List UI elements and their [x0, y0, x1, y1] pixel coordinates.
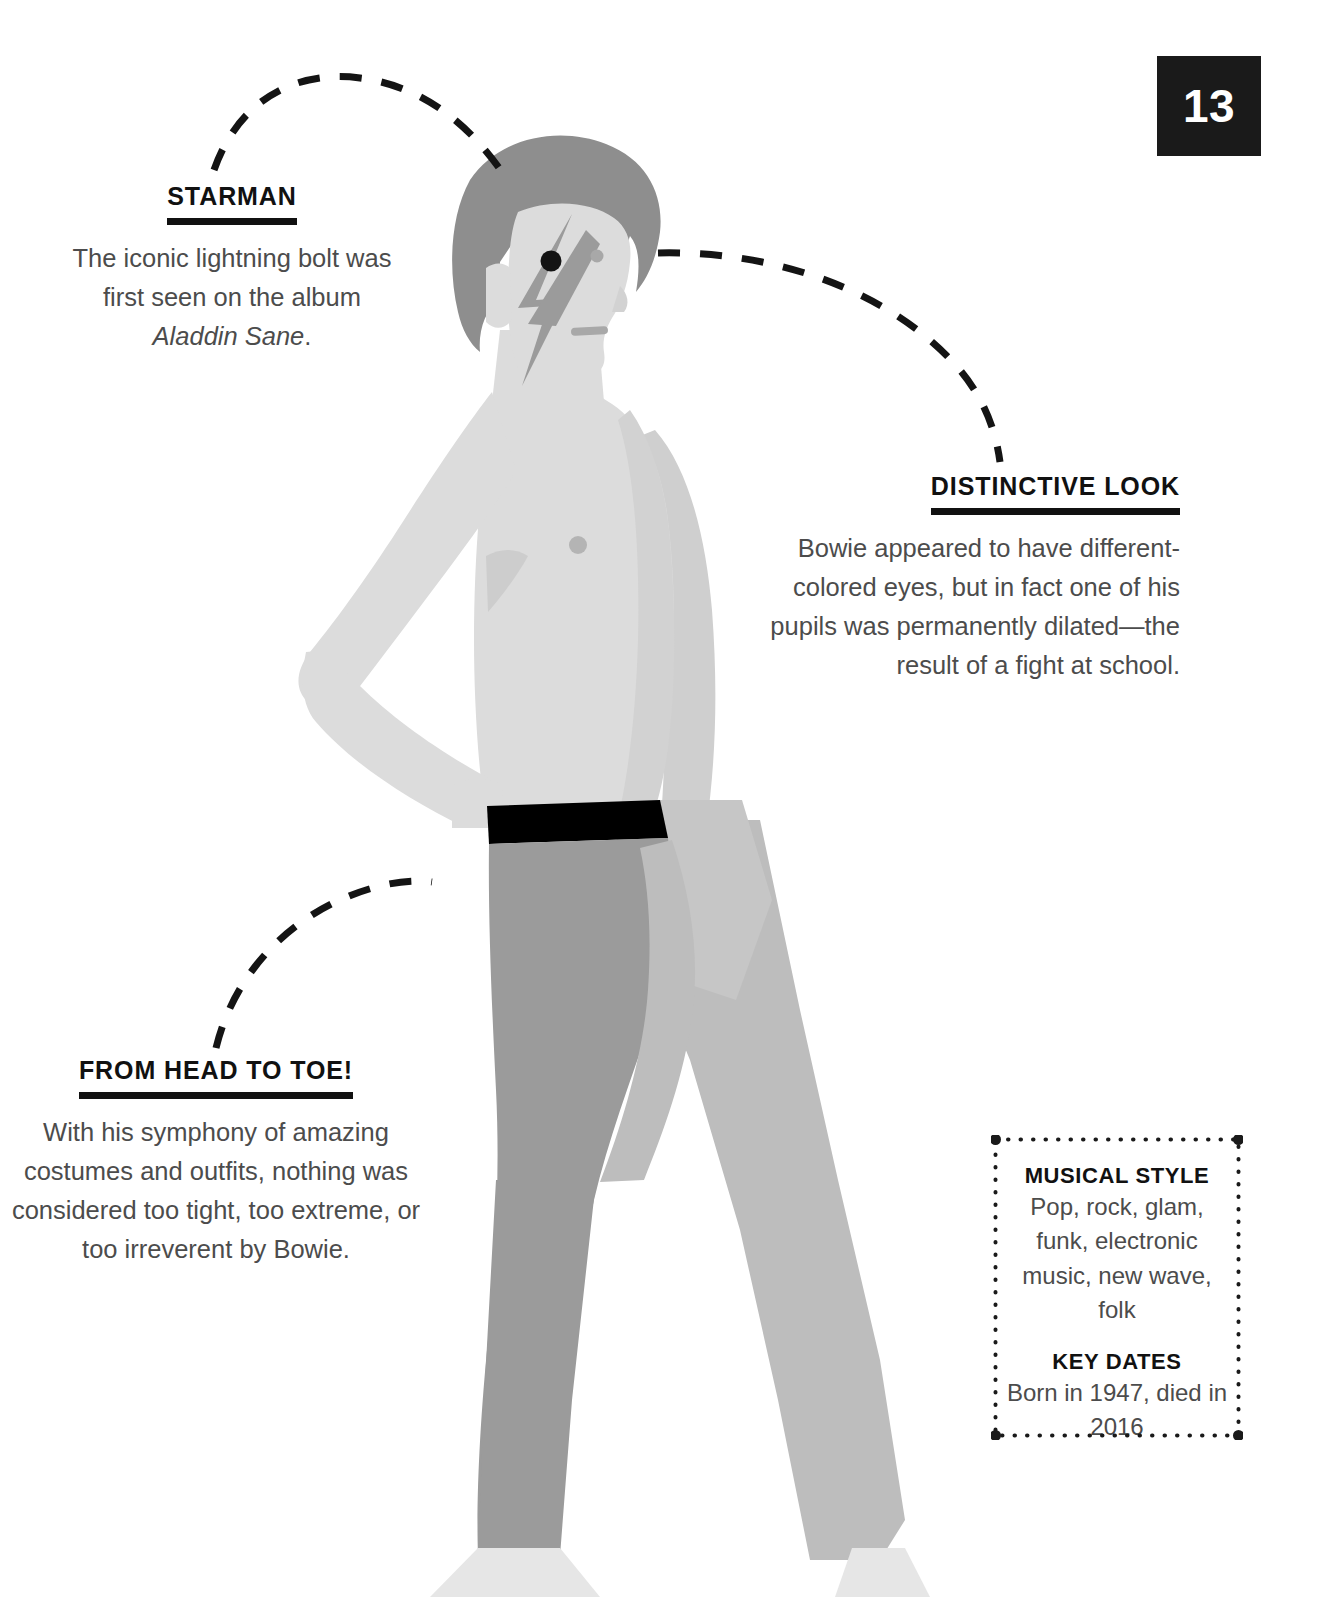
- near-leg-shape: [477, 838, 671, 1556]
- far-leg-thigh-shape: [600, 840, 695, 1182]
- torso-shape: [474, 382, 674, 826]
- dilated-pupil-dot: [541, 251, 562, 272]
- fact-box-dotted-border: [991, 1135, 1243, 1440]
- callout-starman-body-post: .: [304, 322, 311, 350]
- lightning-bolt-icon: [518, 214, 572, 386]
- elbow-shade: [486, 550, 528, 612]
- callout-distinctive-look-body: Bowie appeared to have different-colored…: [760, 529, 1180, 685]
- near-foot-shape: [430, 1548, 600, 1597]
- near-arm-forearm-shape: [303, 650, 500, 826]
- near-arm-upper-shape: [298, 392, 516, 709]
- callout-from-head-to-toe-body: With his symphony of amazing costumes an…: [6, 1113, 426, 1269]
- callout-from-head-to-toe-heading: FROM HEAD TO TOE!: [79, 1057, 353, 1099]
- callout-from-head-to-toe: FROM HEAD TO TOE! With his symphony of a…: [6, 1057, 426, 1269]
- torso-back-shade: [616, 410, 674, 826]
- callout-distinctive-look: DISTINCTIVE LOOK Bowie appeared to have …: [760, 473, 1180, 685]
- sideburn-shape: [486, 264, 512, 328]
- callout-starman: STARMAN The iconic lightning bolt was fi…: [62, 183, 402, 356]
- far-foot-shape: [835, 1548, 930, 1597]
- normal-eye-dot: [591, 250, 604, 263]
- lightning-bolt-icon-upper: [528, 230, 600, 326]
- callout-distinctive-look-heading: DISTINCTIVE LOOK: [931, 473, 1180, 515]
- infographic-page: 13 STARMAN The iconic lightning bolt was…: [0, 0, 1317, 1597]
- far-hip-shape: [636, 800, 772, 1000]
- nipple-dot: [569, 536, 587, 554]
- near-leg-shin-shape: [478, 1180, 596, 1556]
- hand-shape: [452, 779, 504, 829]
- hair-shape: [452, 136, 660, 352]
- connector-distinctive-look-arc: [658, 253, 1000, 462]
- face-shape: [508, 203, 630, 374]
- mouth-line: [571, 326, 608, 336]
- far-leg-shape: [612, 820, 905, 1560]
- page-number-badge: 13: [1157, 56, 1261, 156]
- nose-shape: [612, 286, 627, 312]
- waistband-shape: [487, 800, 668, 844]
- callout-starman-body-pre: The iconic lightning bolt was first seen…: [73, 244, 392, 311]
- connector-starman-arc: [214, 77, 502, 172]
- callout-starman-album-title: Aladdin Sane: [153, 322, 305, 350]
- far-arm-shape: [630, 430, 715, 830]
- neck-shape: [492, 330, 604, 402]
- connector-from-head-to-toe-arc: [216, 881, 432, 1048]
- callout-starman-body: The iconic lightning bolt was first seen…: [62, 239, 402, 356]
- fact-box: MUSICAL STYLE Pop, rock, glam, funk, ele…: [991, 1135, 1243, 1440]
- callout-starman-heading: STARMAN: [167, 183, 296, 225]
